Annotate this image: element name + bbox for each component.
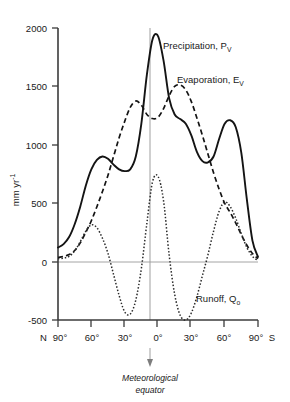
x-tick-label-0: 0° <box>153 332 162 343</box>
runoff-label-text: Runoff, Q <box>196 293 237 304</box>
y-tick-label-1500: 1500 <box>26 81 47 92</box>
evaporation-label-sub: V <box>239 80 244 87</box>
x-tick-label-s60: 60° <box>217 332 232 343</box>
y-tick-label-500: 500 <box>31 198 47 209</box>
precipitation-evaporation-runoff-chart: 2000 1500 1000 500 0 -500 mm yr-1 N 90° … <box>0 0 290 402</box>
y-tick-label-0: 0 <box>42 257 47 268</box>
runoff-label-sub: o <box>237 299 241 306</box>
precipitation-label-sub: V <box>227 46 232 53</box>
x-axis-ticks <box>58 320 258 327</box>
equator-arrow-icon <box>147 359 153 367</box>
y-tick-label-1000: 1000 <box>26 140 47 151</box>
x-axis-right-cap: S <box>269 332 275 343</box>
y-tick-label-minus500: -500 <box>28 315 47 326</box>
y-axis-ticks <box>52 28 58 320</box>
y-axis-title-main: mm yr <box>10 180 21 206</box>
equator-annotation: Meteorological equator <box>122 348 179 395</box>
precipitation-curve <box>58 34 258 257</box>
evaporation-label: Evaporation, EV <box>177 74 244 87</box>
chart-svg: 2000 1500 1000 500 0 -500 mm yr-1 N 90° … <box>0 0 290 402</box>
svg-text:mm yr-1: mm yr-1 <box>9 174 21 207</box>
x-tick-label-n60: 60° <box>85 332 100 343</box>
equator-annotation-line2: equator <box>135 385 165 395</box>
precipitation-label-text: Precipitation, P <box>163 40 227 51</box>
precipitation-label: Precipitation, PV <box>163 40 232 53</box>
y-axis-title: mm yr-1 <box>9 174 21 207</box>
equator-annotation-line1: Meteorological <box>122 373 179 383</box>
x-axis-left-cap: N <box>40 332 47 343</box>
y-axis-title-exponent: -1 <box>9 174 16 180</box>
evaporation-curve <box>58 85 258 259</box>
x-tick-label-n90: 90° <box>53 332 68 343</box>
evaporation-label-text: Evaporation, E <box>177 74 239 85</box>
x-tick-label-n30: 30° <box>118 332 133 343</box>
x-tick-label-s30: 30° <box>184 332 199 343</box>
runoff-label: Runoff, Qo <box>196 293 241 306</box>
y-tick-label-2000: 2000 <box>26 23 47 34</box>
x-tick-label-s90: 90° <box>249 332 264 343</box>
